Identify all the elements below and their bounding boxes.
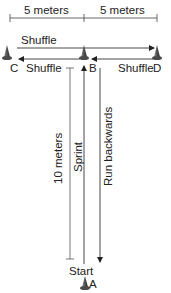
run-backwards-label: Run backwards — [103, 107, 115, 186]
dimension-label-right: 5 meters — [100, 5, 145, 17]
dimension-label-left: 5 meters — [24, 5, 69, 17]
shuffle-label-right: Shuffle — [118, 63, 154, 75]
cone-label-c: C — [10, 63, 18, 75]
cone-label-b: B — [89, 63, 97, 75]
cone-b-icon — [79, 45, 89, 60]
start-label: Start — [69, 266, 93, 278]
sprint-label: Sprint — [73, 142, 85, 172]
shuffle-label-top: Shuffle — [21, 35, 57, 47]
dimension-label-vertical: 10 meters — [53, 133, 65, 184]
cone-d-icon — [152, 45, 162, 60]
shuffle-label-left: Shuffle — [26, 63, 62, 75]
cone-label-d: D — [153, 63, 161, 75]
cone-label-a: A — [89, 279, 97, 291]
cone-c-icon — [2, 45, 12, 60]
